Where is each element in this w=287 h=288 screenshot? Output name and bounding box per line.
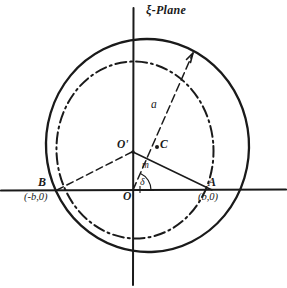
label-point-A: A — [208, 176, 216, 188]
radius-line-to-B — [57, 152, 132, 190]
label-angle-delta: δ — [140, 177, 145, 187]
label-point-B-coordinate: (-b,0) — [24, 192, 48, 203]
label-point-A-coordinate: (b,0) — [198, 192, 218, 203]
figure-title: ξ-Plane — [146, 3, 186, 18]
label-center-O-prime: O' — [117, 139, 129, 151]
label-origin-O: O — [123, 191, 131, 203]
vector-a-arrowhead — [187, 53, 194, 63]
outer-circle — [39, 32, 256, 259]
diagram-svg — [0, 0, 287, 288]
point-O-prime-dot — [131, 150, 134, 153]
figure-canvas: ξ-Plane B (-b,0) A (b,0) O O' C a m δ — [0, 0, 287, 288]
label-point-C: C — [160, 139, 168, 151]
point-C-dot — [155, 145, 159, 149]
label-radius-a: a — [151, 99, 157, 111]
y-axis — [133, 8, 134, 285]
inner-circle — [52, 58, 218, 243]
label-segment-m: m — [142, 161, 149, 171]
label-point-B: B — [38, 176, 46, 188]
